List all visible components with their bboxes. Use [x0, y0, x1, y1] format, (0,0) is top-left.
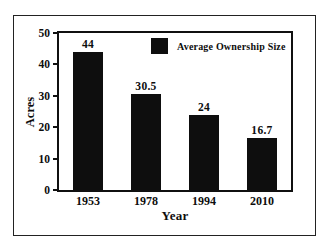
y-tick-label: 20 — [13, 120, 54, 134]
x-axis-label: Year — [57, 208, 293, 224]
y-tick-label: 50 — [13, 26, 54, 40]
bar-value-label: 24 — [182, 100, 226, 114]
x-tick-label: 2010 — [232, 194, 292, 208]
y-tick-labels: 01020304050 — [13, 33, 54, 190]
bar-value-label: 44 — [66, 37, 110, 51]
y-tick-label: 10 — [13, 152, 54, 166]
y-tick-label: 30 — [13, 89, 54, 103]
bar-value-label: 30.5 — [124, 79, 168, 93]
legend-swatch-icon — [151, 38, 168, 54]
y-tick-label: 40 — [13, 57, 54, 71]
x-tick-label: 1953 — [58, 194, 118, 208]
bar-1978 — [131, 94, 161, 190]
bars-layer: 4430.52416.7 — [59, 33, 291, 190]
x-tick-label: 1994 — [174, 194, 234, 208]
legend: Average Ownership Size — [151, 38, 286, 54]
y-tick-label: 0 — [13, 183, 54, 197]
bar-value-label: 16.7 — [240, 123, 284, 137]
bar-2010 — [247, 138, 277, 190]
bar-chart: Acres 01020304050 4430.52416.7 Average O… — [0, 0, 329, 250]
bar-1994 — [189, 115, 219, 190]
legend-label: Average Ownership Size — [177, 41, 286, 52]
bar-1953 — [73, 52, 103, 190]
plot-area: 4430.52416.7 Average Ownership Size — [57, 31, 293, 192]
x-tick-label: 1978 — [116, 194, 176, 208]
x-tick-labels: 1953197819942010 — [59, 194, 291, 209]
